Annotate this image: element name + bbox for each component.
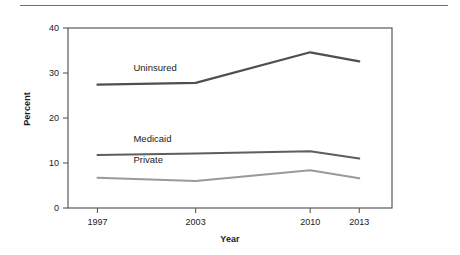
- y-axis-title: Percent: [22, 79, 32, 139]
- y-tick-label: 30: [49, 68, 59, 78]
- series-label-private: Private: [133, 154, 163, 165]
- line-chart-plot: 010203040 1997200320102013 UninsuredMedi…: [0, 0, 460, 255]
- x-tick-label: 2010: [300, 217, 320, 227]
- x-axis-ticks: 1997200320102013: [87, 208, 369, 227]
- x-axis-title: Year: [0, 234, 460, 244]
- series-inline-labels: UninsuredMedicaidPrivate: [133, 62, 176, 166]
- series-label-medicaid: Medicaid: [133, 133, 171, 144]
- x-tick-label: 1997: [87, 217, 107, 227]
- y-tick-label: 0: [54, 203, 59, 213]
- x-tick-label: 2003: [186, 217, 206, 227]
- y-axis-ticks: 010203040: [49, 23, 68, 213]
- y-tick-label: 20: [49, 113, 59, 123]
- chart-figure: 010203040 1997200320102013 UninsuredMedi…: [0, 0, 460, 255]
- plot-frame: [68, 28, 392, 208]
- series-line-private: [97, 170, 359, 181]
- y-tick-label: 10: [49, 158, 59, 168]
- plot-border: [68, 28, 392, 208]
- x-tick-label: 2013: [349, 217, 369, 227]
- series-label-uninsured: Uninsured: [133, 62, 176, 73]
- y-tick-label: 40: [49, 23, 59, 33]
